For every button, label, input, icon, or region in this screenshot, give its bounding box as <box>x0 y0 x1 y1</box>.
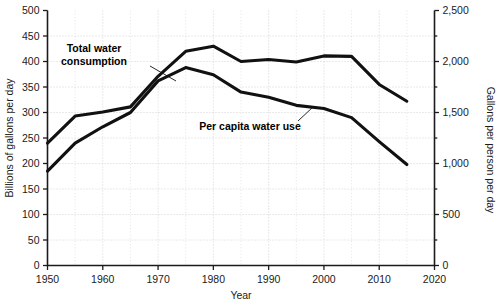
y-left-tick-label: 450 <box>22 30 40 42</box>
y-left-tick-label: 0 <box>34 259 40 271</box>
x-axis-title: Year <box>230 289 252 301</box>
y-left-tick-label: 350 <box>22 81 40 93</box>
x-tick-label: 1960 <box>91 273 115 285</box>
x-tick-label: 1990 <box>257 273 281 285</box>
y-left-tick-label: 300 <box>22 106 40 118</box>
x-tick-label: 1980 <box>202 273 226 285</box>
y-right-tick-label: 1,000 <box>443 157 469 169</box>
y-left-tick-label: 500 <box>22 4 40 16</box>
x-tick-label: 2010 <box>368 273 392 285</box>
y-left-tick-label: 100 <box>22 208 40 220</box>
water-use-line-chart: 19501960197019801990200020102020 0501001… <box>0 0 497 305</box>
x-tick-label: 2020 <box>423 273 447 285</box>
chart-canvas: 19501960197019801990200020102020 0501001… <box>0 0 497 305</box>
x-tick-label: 1950 <box>36 273 60 285</box>
y-left-tick-label: 200 <box>22 157 40 169</box>
annotation-percapita-line1: Per capita water use <box>199 120 301 132</box>
y-left-tick-label: 250 <box>22 132 40 144</box>
y-right-tick-label: 1,500 <box>443 106 469 118</box>
y-right-tick-label: 2,500 <box>443 4 469 16</box>
y-axis-right-title: Gallons per person per day <box>485 87 497 214</box>
y-left-tick-label: 400 <box>22 55 40 67</box>
x-tick-label: 1970 <box>146 273 170 285</box>
y-right-tick-label: 2,000 <box>443 55 469 67</box>
y-left-tick-label: 50 <box>28 234 40 246</box>
y-axis-left-title: Billions of gallons per day <box>3 78 15 198</box>
x-tick-label: 2000 <box>312 273 336 285</box>
y-left-tick-label: 150 <box>22 183 40 195</box>
y-right-tick-label: 500 <box>443 208 461 220</box>
annotation-total-line1: Total water <box>67 42 122 54</box>
annotation-total-line2: consumption <box>61 55 127 67</box>
y-right-tick-label: 0 <box>443 259 449 271</box>
